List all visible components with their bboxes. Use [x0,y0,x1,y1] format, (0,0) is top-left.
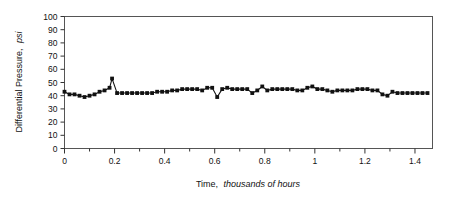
data-point-marker [250,91,254,95]
y-axis: 0102030405060708090100 [43,12,64,154]
data-point-marker [120,91,124,95]
data-point-marker [78,94,82,98]
data-point-marker [406,91,410,95]
data-point-marker [325,89,329,93]
data-point-marker [265,89,269,93]
data-point-marker [275,87,279,91]
y-tick-label: 50 [48,78,58,88]
data-point-marker [220,87,224,91]
plot-frame [65,17,433,149]
data-point-marker [376,89,380,93]
data-point-marker [215,95,219,99]
data-point-marker [160,90,164,94]
y-axis-title: Differential Pressure, psi [14,31,24,133]
data-point-marker [180,87,184,91]
data-point-marker [73,92,77,96]
y-tick-label: 10 [48,130,58,140]
data-point-marker [361,87,365,91]
data-point-marker [270,87,274,91]
data-point-marker [411,91,415,95]
y-tick-label: 20 [48,117,58,127]
data-point-marker [260,85,264,89]
x-tick-label: 1.4 [409,156,421,166]
data-point-marker [108,86,112,90]
data-point-marker [230,87,234,91]
data-point-marker [300,89,304,93]
data-point-marker [125,91,129,95]
y-tick-label: 80 [48,38,58,48]
data-point-marker [140,91,144,95]
x-axis-title-lead: Time, [196,179,218,189]
data-point-marker [305,86,309,90]
y-axis-title-text: Differential Pressure, psi [14,31,24,133]
x-tick-label: 0.8 [259,156,271,166]
y-tick-label: 100 [43,12,57,22]
data-point-marker [135,91,139,95]
y-tick-label: 0 [53,144,58,154]
data-point-marker [88,94,92,98]
y-tick-label: 40 [48,91,58,101]
data-point-marker [416,91,420,95]
data-point-marker [280,87,284,91]
data-point-marker [210,86,214,90]
data-point-marker [345,89,349,93]
y-axis-title-emphasis: psi [14,31,24,45]
data-point-marker [335,89,339,93]
data-point-marker [240,87,244,91]
data-point-marker [130,91,134,95]
x-axis-title: Time, thousands of hours [196,179,301,189]
data-point-marker [83,95,87,99]
data-point-marker [98,90,102,94]
data-point-marker [285,87,289,91]
data-point-marker [245,87,249,91]
data-point-marker [366,87,370,91]
data-point-marker [110,77,114,81]
data-point-marker [195,87,199,91]
data-point-marker [295,89,299,93]
data-point-marker [396,91,400,95]
x-tick-label: 1.2 [359,156,371,166]
data-point-marker [320,87,324,91]
data-point-marker [103,89,107,93]
differential-pressure-line-chart: 0102030405060708090100 00.20.40.60.811.2… [0,0,452,200]
data-point-marker [401,91,405,95]
data-point-marker [255,89,259,93]
data-point-marker [371,89,375,93]
y-axis-title-lead: Differential Pressure, [14,49,24,133]
data-point-marker [190,87,194,91]
data-point-marker [170,89,174,93]
x-axis: 00.20.40.60.811.21.4 [62,149,421,166]
data-point-marker [93,92,97,96]
data-point-marker [340,89,344,93]
data-point-marker [185,87,189,91]
x-tick-label: 0.2 [109,156,121,166]
data-point-marker [200,89,204,93]
x-tick-label: 0.4 [159,156,171,166]
data-point-marker [155,90,159,94]
x-tick-label: 0.6 [209,156,221,166]
data-point-marker [290,87,294,91]
x-tick-label: 1 [312,156,317,166]
data-point-marker [150,91,154,95]
data-point-marker [421,91,425,95]
data-point-marker [386,94,390,98]
data-point-marker [115,91,119,95]
data-series-group [63,77,430,99]
data-point-marker [165,90,169,94]
data-point-marker [426,91,430,95]
data-point-marker [235,87,239,91]
data-point-marker [330,90,334,94]
data-point-marker [225,86,229,90]
data-point-marker [145,91,149,95]
series-markers [63,77,430,99]
x-tick-label: 0 [62,156,67,166]
data-point-marker [63,90,67,94]
data-point-marker [68,92,72,96]
data-point-marker [310,85,314,89]
data-point-marker [356,87,360,91]
y-tick-label: 70 [48,51,58,61]
data-point-marker [391,90,395,94]
data-point-marker [381,92,385,96]
y-tick-label: 90 [48,25,58,35]
data-point-marker [175,89,179,93]
